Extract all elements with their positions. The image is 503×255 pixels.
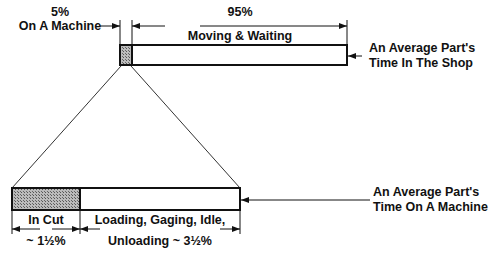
bottom-bar — [12, 188, 240, 210]
loading-label: Loading, Gaging, Idle, — [80, 213, 240, 228]
loading-pct: Unloading ~ 3½% — [80, 234, 240, 249]
loading-segment — [80, 188, 240, 210]
moving-waiting-segment — [132, 45, 347, 65]
top-bar — [120, 45, 347, 65]
machine-label: On A Machine — [10, 19, 110, 34]
machine-pct: 5% — [20, 5, 100, 20]
machine-segment — [120, 45, 132, 65]
machine-callout-line1: An Average Part's — [373, 185, 479, 200]
zoom-lines — [12, 66, 240, 188]
shop-callout-line2: Time In The Shop — [369, 56, 473, 71]
shop-callout-line1: An Average Part's — [369, 41, 475, 56]
in-cut-segment — [12, 188, 80, 210]
in-cut-pct: ~ 1½% — [12, 234, 80, 249]
moving-label: Moving & Waiting — [160, 29, 320, 44]
moving-pct: 95% — [190, 5, 290, 20]
machine-callout-line2: Time On A Machine — [373, 200, 488, 215]
in-cut-label: In Cut — [12, 213, 80, 228]
